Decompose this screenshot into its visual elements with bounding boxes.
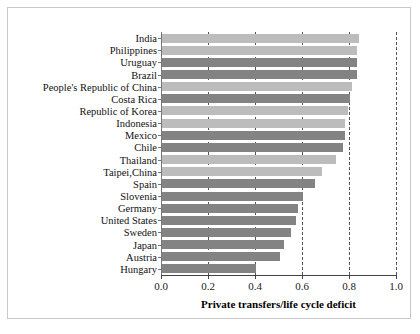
chart-row: Philippines <box>161 44 396 56</box>
chart-screenshot: 0.00.20.40.60.81.0 IndiaPhilippinesUrugu… <box>0 0 420 334</box>
y-tick-mark <box>158 160 161 161</box>
bar <box>162 167 322 176</box>
y-tick-mark <box>158 123 161 124</box>
bar <box>162 94 350 103</box>
category-label: Mexico <box>125 130 157 141</box>
category-label: Indonesia <box>116 118 157 129</box>
x-tick-label: 0.6 <box>282 280 322 293</box>
category-label: Republic of Korea <box>79 105 157 116</box>
chart-row: Austria <box>161 251 396 263</box>
y-tick-mark <box>158 208 161 209</box>
chart-row: Indonesia <box>161 117 396 129</box>
x-tick-label: 0.4 <box>235 280 275 293</box>
bar <box>162 131 345 140</box>
chart-row: Sweden <box>161 226 396 238</box>
plot-area: IndiaPhilippinesUruguayBrazilPeople's Re… <box>161 32 396 275</box>
x-tick-mark <box>208 275 209 279</box>
y-tick-mark <box>158 99 161 100</box>
x-tick-mark <box>349 275 350 279</box>
category-label: Philippines <box>110 45 157 56</box>
bar <box>162 46 357 55</box>
category-label: Germany <box>118 203 157 214</box>
bar <box>162 106 348 115</box>
chart-row: Uruguay <box>161 56 396 68</box>
x-axis-line <box>161 275 396 276</box>
bar <box>162 70 357 79</box>
x-tick-mark <box>161 275 162 279</box>
bar <box>162 228 291 237</box>
y-tick-mark <box>158 135 161 136</box>
bar <box>162 192 303 201</box>
category-label: United States <box>101 215 157 226</box>
y-tick-mark <box>158 257 161 258</box>
bar <box>162 58 357 67</box>
chart-row: Hungary <box>161 263 396 275</box>
chart-row: Japan <box>161 239 396 251</box>
chart-row: Thailand <box>161 154 396 166</box>
chart-row: United States <box>161 214 396 226</box>
category-label: Brazil <box>131 69 157 80</box>
chart-frame: 0.00.20.40.60.81.0 IndiaPhilippinesUrugu… <box>7 7 411 319</box>
y-tick-mark <box>158 62 161 63</box>
y-tick-mark <box>158 38 161 39</box>
x-tick-label: 1.0 <box>376 280 416 293</box>
x-axis-title: Private transfers/life cycle deficit <box>161 298 396 310</box>
category-label: Sweden <box>124 227 157 238</box>
x-tick-mark <box>396 275 397 279</box>
y-tick-mark <box>158 245 161 246</box>
y-tick-mark <box>158 269 161 270</box>
chart-row: Brazil <box>161 68 396 80</box>
category-label: Slovenia <box>120 191 157 202</box>
x-tick-label: 0.0 <box>141 280 181 293</box>
category-label: Japan <box>133 239 157 250</box>
category-label: Hungary <box>120 263 157 274</box>
gridline <box>396 32 397 275</box>
bar <box>162 252 280 261</box>
bar <box>162 264 256 273</box>
bar <box>162 82 352 91</box>
y-tick-mark <box>158 232 161 233</box>
chart-row: Republic of Korea <box>161 105 396 117</box>
x-tick-mark <box>255 275 256 279</box>
bar <box>162 204 298 213</box>
chart-row: Chile <box>161 141 396 153</box>
chart-row: Costa Rica <box>161 93 396 105</box>
y-tick-mark <box>158 87 161 88</box>
chart-row: Germany <box>161 202 396 214</box>
chart-row: Mexico <box>161 129 396 141</box>
category-label: Spain <box>133 178 157 189</box>
x-tick-mark <box>302 275 303 279</box>
category-label: Thailand <box>120 154 157 165</box>
category-label: People's Republic of China <box>43 81 157 92</box>
category-label: India <box>135 33 157 44</box>
chart-row: Slovenia <box>161 190 396 202</box>
bar <box>162 240 284 249</box>
y-tick-mark <box>158 147 161 148</box>
category-label: Chile <box>134 142 157 153</box>
category-label: Taipei,China <box>103 166 157 177</box>
chart-row: People's Republic of China <box>161 81 396 93</box>
chart-row: Spain <box>161 178 396 190</box>
category-label: Uruguay <box>120 57 157 68</box>
bar <box>162 179 315 188</box>
y-tick-mark <box>158 111 161 112</box>
bar <box>162 155 336 164</box>
x-tick-label: 0.2 <box>188 280 228 293</box>
y-tick-mark <box>158 196 161 197</box>
y-tick-mark <box>158 184 161 185</box>
bar <box>162 143 343 152</box>
category-label: Austria <box>126 251 157 262</box>
y-tick-mark <box>158 75 161 76</box>
y-tick-mark <box>158 172 161 173</box>
chart-row: Taipei,China <box>161 166 396 178</box>
category-label: Costa Rica <box>111 93 157 104</box>
chart-row: India <box>161 32 396 44</box>
x-tick-label: 0.8 <box>329 280 369 293</box>
y-tick-mark <box>158 50 161 51</box>
bar <box>162 34 359 43</box>
bar <box>162 216 296 225</box>
bar <box>162 119 345 128</box>
y-tick-mark <box>158 220 161 221</box>
